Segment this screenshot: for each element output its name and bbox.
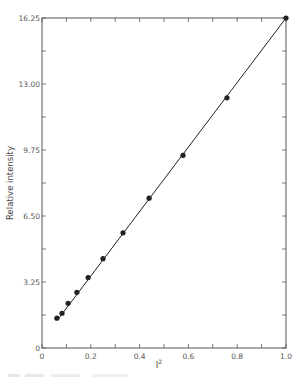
data-point [59, 311, 64, 316]
data-point [100, 256, 105, 261]
y-axis-tick-labels: 03.256.509.7513.0016.25 [19, 14, 41, 353]
y-tick-label: 6.50 [23, 212, 40, 221]
y-tick-label: 0 [35, 344, 40, 353]
y-tick-label: 9.75 [23, 146, 40, 155]
data-point [120, 230, 125, 235]
x-tick-label: 1.0 [280, 352, 292, 361]
data-point [86, 275, 91, 280]
chart: 00.20.40.60.81.0 03.256.509.7513.0016.25… [0, 0, 305, 381]
regression-line [58, 18, 286, 320]
data-point [54, 316, 59, 321]
fit-line [58, 18, 286, 320]
data-point [224, 95, 229, 100]
y-axis-title: Relative intensity [5, 146, 15, 220]
plot-border [42, 18, 286, 348]
x-tick-label: 0.6 [182, 352, 194, 361]
y-axis-ticks [42, 18, 286, 348]
x-tick-label: 0.4 [134, 352, 146, 361]
x-axis-title: I2 [156, 358, 163, 370]
y-tick-label: 13.00 [19, 80, 41, 89]
y-tick-label: 16.25 [19, 14, 41, 23]
data-point [74, 290, 79, 295]
x-tick-label: 0 [40, 352, 45, 361]
data-point [66, 301, 71, 306]
data-point [283, 15, 288, 20]
x-axis-ticks [42, 18, 286, 348]
x-axis-tick-labels: 00.20.40.60.81.0 [40, 352, 293, 361]
x-axis-title-superscript: 2 [158, 358, 162, 365]
data-point [147, 196, 152, 201]
plot-frame [42, 18, 286, 348]
y-tick-label: 3.25 [23, 278, 40, 287]
data-point [180, 153, 185, 158]
figure-caption-cropped [8, 374, 128, 377]
x-tick-label: 0.2 [85, 352, 97, 361]
x-tick-label: 0.8 [231, 352, 243, 361]
